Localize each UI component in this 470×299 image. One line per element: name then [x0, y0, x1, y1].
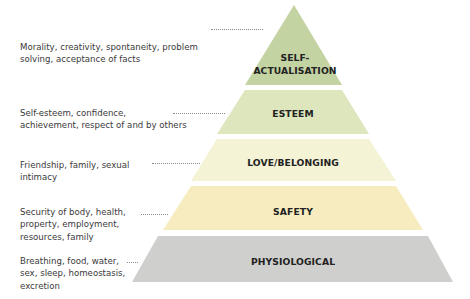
description-self-actualisation: Morality, creativity, spontaneity, probl…	[20, 41, 198, 66]
tier-label-physiological: PHYSIOLOGICAL	[233, 256, 353, 269]
description-line: Self-esteem, confidence,	[20, 107, 187, 119]
leader-line-love-belonging	[152, 163, 200, 164]
leader-line-self-actualisation	[211, 29, 263, 30]
description-line: solving, acceptance of facts	[20, 53, 198, 65]
tier-label-line: SELF-	[250, 52, 340, 65]
description-line: property, employment,	[20, 218, 126, 230]
description-esteem: Self-esteem, confidence, achievement, re…	[20, 107, 187, 132]
tier-label-self-actualisation: SELF- ACTUALISATION	[250, 52, 340, 77]
leader-line-safety	[141, 214, 168, 215]
description-line: excretion	[20, 280, 125, 292]
tier-label-line: ACTUALISATION	[250, 65, 340, 78]
description-line: sex, sleep, homeostasis,	[20, 267, 125, 279]
description-physiological: Breathing, food, water, sex, sleep, home…	[20, 255, 125, 292]
description-line: Friendship, family, sexual	[20, 159, 129, 171]
description-love-belonging: Friendship, family, sexual intimacy	[20, 159, 129, 184]
description-line: Security of body, health,	[20, 206, 126, 218]
description-line: Breathing, food, water,	[20, 255, 125, 267]
tier-label-safety: SAFETY	[243, 206, 343, 219]
description-line: Morality, creativity, spontaneity, probl…	[20, 41, 198, 53]
description-line: achievement, respect of and by others	[20, 119, 187, 131]
description-line: intimacy	[20, 171, 129, 183]
tier-label-esteem: ESTEEM	[243, 108, 343, 121]
tier-label-love-belonging: LOVE/BELONGING	[233, 157, 353, 170]
description-safety: Security of body, health, property, empl…	[20, 206, 126, 243]
description-line: resources, family	[20, 231, 126, 243]
leader-line-physiological	[127, 262, 138, 263]
